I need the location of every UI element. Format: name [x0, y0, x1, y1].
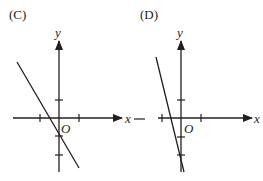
x-axis-label: x: [124, 111, 131, 126]
origin-label: O: [184, 121, 194, 136]
panel-d: (D) y x O: [140, 7, 260, 172]
y-axis-label: y: [175, 25, 183, 40]
plotted-line: [156, 57, 184, 172]
plotted-line: [17, 62, 79, 168]
diagram-canvas: (C) y x O (D) y x O: [0, 0, 263, 181]
panel-c: (C) y x O: [9, 7, 131, 172]
panel-c-label: (C): [9, 7, 26, 22]
x-axis-label: x: [253, 111, 260, 126]
y-axis-label: y: [53, 25, 61, 40]
origin-label: O: [61, 121, 71, 136]
panel-d-label: (D): [140, 7, 158, 22]
